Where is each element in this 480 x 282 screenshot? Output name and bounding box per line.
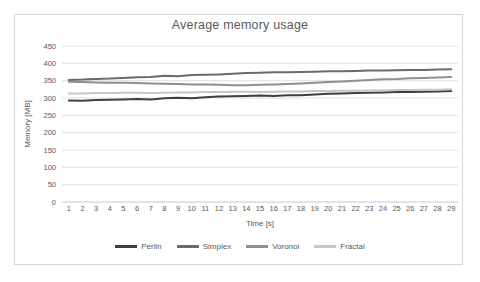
x-tick-label: 9 (176, 204, 180, 213)
legend-label: Simplex (203, 242, 231, 251)
legend-label: Fractal (340, 242, 364, 251)
y-tick-label: 350 (43, 76, 56, 85)
y-tick-label: 150 (43, 146, 56, 155)
plot-area: 0501001502002503003504004501234567891011… (0, 0, 480, 282)
x-tick-label: 20 (324, 204, 332, 213)
x-tick-label: 27 (420, 204, 428, 213)
y-tick-label: 100 (43, 163, 56, 172)
x-tick-label: 3 (94, 204, 98, 213)
x-tick-label: 17 (283, 204, 291, 213)
legend-label: Voronoi (272, 242, 299, 251)
x-tick-label: 23 (365, 204, 373, 213)
y-tick-label: 200 (43, 128, 56, 137)
x-tick-label: 14 (242, 204, 250, 213)
x-tick-label: 21 (338, 204, 346, 213)
legend-line-swatch (115, 245, 137, 248)
legend-item-perlin: Perlin (115, 242, 161, 251)
y-tick-label: 250 (43, 111, 56, 120)
x-tick-label: 28 (433, 204, 441, 213)
legend-item-simplex: Simplex (177, 242, 231, 251)
legend-line-swatch (246, 245, 268, 248)
x-tick-label: 16 (269, 204, 277, 213)
x-tick-label: 11 (201, 204, 209, 213)
y-tick-label: 50 (48, 180, 56, 189)
x-tick-label: 26 (406, 204, 414, 213)
y-tick-label: 450 (43, 42, 56, 51)
y-tick-label: 300 (43, 94, 56, 103)
x-tick-label: 19 (310, 204, 318, 213)
x-tick-label: 6 (135, 204, 139, 213)
legend-item-fractal: Fractal (314, 242, 364, 251)
legend-line-swatch (314, 245, 336, 248)
y-tick-label: 0 (52, 198, 56, 207)
x-tick-label: 22 (351, 204, 359, 213)
x-tick-label: 2 (80, 204, 84, 213)
x-tick-label: 29 (447, 204, 455, 213)
legend-label: Perlin (141, 242, 161, 251)
x-tick-label: 8 (162, 204, 166, 213)
x-tick-label: 5 (121, 204, 125, 213)
legend-item-voronoi: Voronoi (246, 242, 299, 251)
legend: PerlinSimplexVoronoiFractal (0, 242, 480, 251)
x-axis-title: Time [s] (246, 219, 274, 228)
legend-line-swatch (177, 245, 199, 248)
x-tick-label: 1 (67, 204, 71, 213)
x-tick-label: 15 (256, 204, 264, 213)
x-tick-label: 24 (379, 204, 387, 213)
y-tick-label: 400 (43, 59, 56, 68)
x-tick-label: 18 (297, 204, 305, 213)
x-tick-label: 13 (229, 204, 237, 213)
x-tick-label: 25 (392, 204, 400, 213)
x-tick-label: 7 (149, 204, 153, 213)
x-tick-label: 10 (188, 204, 196, 213)
x-tick-label: 12 (215, 204, 223, 213)
x-tick-label: 4 (108, 204, 112, 213)
chart-image: Average memory usage Memory [MB] 0501001… (0, 0, 480, 282)
